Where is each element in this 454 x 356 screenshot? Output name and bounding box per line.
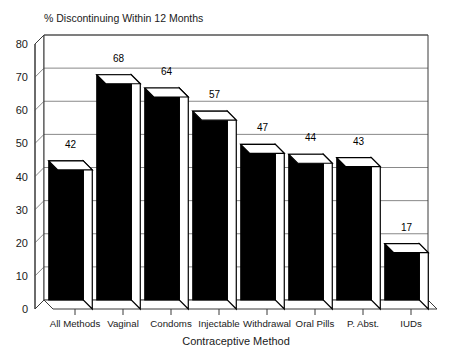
bar [97, 75, 141, 309]
bar-front-face [145, 88, 180, 300]
bar-value-label: 17 [401, 222, 413, 233]
bar-front-face [49, 161, 84, 300]
bar [241, 144, 285, 309]
bar [145, 88, 189, 309]
y-axis-tick-label: 50 [16, 137, 28, 149]
x-axis-tick-label: Oral Pills [296, 318, 335, 329]
x-axis-title: Contraceptive Method [182, 335, 290, 347]
y-axis: 01020304050607080 [16, 38, 28, 315]
y-axis-tick-label: 80 [16, 38, 28, 50]
x-axis-tick-label: Condoms [150, 318, 192, 329]
bar-front-face [241, 144, 276, 300]
bar-side-face [227, 111, 236, 309]
x-axis-tick-label: Injectable [198, 318, 239, 329]
x-axis-tick-label: All Methods [50, 318, 101, 329]
x-axis-tick-label: Withdrawal [243, 318, 291, 329]
y-axis-tick-label: 20 [16, 237, 28, 249]
bar-chart: % Discontinuing Within 12 Months 0102030… [0, 0, 454, 356]
chart-title: % Discontinuing Within 12 Months [44, 12, 203, 24]
bar-value-label: 47 [257, 122, 269, 133]
bar-value-label: 43 [353, 136, 365, 147]
bar [193, 111, 237, 309]
bar [49, 161, 93, 309]
bar-value-label: 68 [113, 53, 125, 64]
bar-side-face [419, 244, 428, 309]
x-axis-tick-label: IUDs [400, 318, 422, 329]
bar-side-face [83, 161, 92, 309]
bar-front-face [337, 158, 372, 300]
bar [385, 244, 429, 309]
y-axis-tick-label: 0 [22, 303, 28, 315]
bar-value-label: 42 [65, 139, 77, 150]
bar [289, 154, 333, 309]
y-axis-tick-label: 60 [16, 104, 28, 116]
bar-front-face [193, 111, 228, 300]
chart-canvas: % Discontinuing Within 12 Months 0102030… [0, 0, 454, 356]
x-axis-tick-label: P. Abst. [347, 318, 379, 329]
bar-side-face [179, 88, 188, 309]
bar-side-face [131, 75, 140, 309]
bar-value-label: 44 [305, 132, 317, 143]
bar-side-face [371, 158, 380, 309]
y-axis-tick-label: 30 [16, 204, 28, 216]
y-axis-tick-label: 10 [16, 270, 28, 282]
bar [337, 158, 381, 309]
bar-side-face [275, 144, 284, 309]
y-axis-tick-label: 70 [16, 71, 28, 83]
y-axis-tick-label: 40 [16, 171, 28, 183]
bar-front-face [289, 154, 324, 300]
bar-value-label: 64 [161, 66, 173, 77]
bar-value-label: 57 [209, 89, 221, 100]
x-axis-tick-label: Vaginal [107, 318, 139, 329]
bar-front-face [97, 75, 132, 300]
bar-side-face [323, 154, 332, 309]
